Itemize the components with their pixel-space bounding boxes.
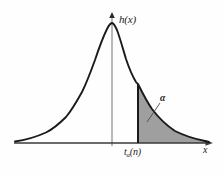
critical-value-label: tα(n)	[124, 146, 141, 158]
shaded-tail-region	[138, 84, 209, 143]
density-function-label: h(x)	[119, 13, 136, 25]
figure-container: h(x) α tα(n) x	[0, 0, 224, 175]
vertical-axis-arrow-icon	[109, 12, 115, 18]
tail-area-label: α	[160, 93, 165, 103]
critical-value-argument: (n)	[130, 146, 141, 157]
x-axis-label: x	[203, 144, 207, 155]
distribution-plot	[0, 0, 224, 175]
